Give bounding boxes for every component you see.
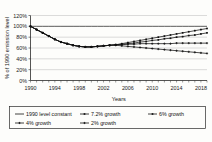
- data-point: [188, 42, 190, 44]
- data-point: [182, 42, 184, 44]
- data-point: [145, 38, 147, 40]
- data-point: [151, 40, 153, 42]
- chart-figure: 0%20%40%60%80%100%120% 19901994199820022…: [0, 0, 212, 142]
- data-point: [157, 36, 159, 38]
- data-point: [163, 43, 165, 45]
- data-point: [175, 42, 177, 44]
- y-tick-label: 0%: [19, 78, 27, 84]
- x-axis-ticks: 19901994199820022006201020142018: [25, 81, 208, 92]
- data-point: [182, 36, 184, 38]
- data-point: [175, 50, 177, 52]
- y-axis-title: % of 1990 emission level: [4, 17, 10, 79]
- data-point: [194, 42, 196, 44]
- series-lines: [29, 25, 208, 54]
- data-point: [176, 33, 178, 35]
- x-tick-label: 1994: [49, 85, 61, 91]
- x-tick-label: 2018: [195, 85, 207, 91]
- legend-label: 1990 level constant: [26, 111, 72, 117]
- x-tick-label: 2006: [122, 85, 134, 91]
- legend-label: 2% growth: [91, 120, 116, 126]
- data-point: [169, 43, 171, 45]
- data-point: [194, 34, 196, 36]
- x-tick-label: 1990: [25, 85, 37, 91]
- data-point: [164, 38, 166, 40]
- data-point: [139, 43, 141, 45]
- data-point: [139, 40, 141, 42]
- data-point: [188, 35, 190, 37]
- data-point: [133, 41, 135, 43]
- data-point: [157, 48, 159, 50]
- x-tick-label: 2010: [146, 85, 158, 91]
- data-point: [170, 37, 172, 39]
- data-point: [151, 37, 153, 39]
- data-point: [84, 113, 86, 115]
- data-point: [200, 29, 202, 31]
- data-point: [194, 30, 196, 32]
- legend-label: 4% growth: [26, 120, 51, 126]
- data-point: [200, 52, 202, 54]
- data-point: [188, 51, 190, 53]
- x-tick-label: 2002: [98, 85, 110, 91]
- x-tick-label: 1998: [73, 85, 85, 91]
- y-tick-label: 20%: [16, 67, 27, 73]
- series-path: [31, 26, 208, 53]
- data-point: [206, 42, 208, 44]
- data-point: [145, 43, 147, 45]
- data-point: [151, 43, 153, 45]
- data-point: [182, 50, 184, 52]
- x-tick-label: 2014: [171, 85, 183, 91]
- x-axis-title: Years: [112, 96, 126, 102]
- legend-label: 7.2% growth: [91, 111, 120, 117]
- y-tick-label: 100%: [13, 23, 27, 29]
- data-point: [145, 41, 147, 43]
- data-point: [200, 33, 202, 35]
- data-point: [127, 45, 129, 47]
- data-point: [157, 43, 159, 45]
- data-point: [169, 49, 171, 51]
- y-axis-ticks: 0%20%40%60%80%100%120%: [13, 13, 30, 84]
- series-2-growth: [29, 25, 208, 54]
- data-point: [200, 42, 202, 44]
- emissions-line-chart: 0%20%40%60%80%100%120% 19901994199820022…: [0, 0, 212, 142]
- data-point: [152, 113, 154, 115]
- data-point: [182, 32, 184, 34]
- y-tick-label: 80%: [16, 34, 27, 40]
- data-point: [170, 34, 172, 36]
- data-point: [206, 32, 208, 34]
- gridlines: [31, 16, 208, 70]
- y-tick-label: 60%: [16, 45, 27, 51]
- data-point: [206, 52, 208, 54]
- data-point: [163, 49, 165, 51]
- data-point: [194, 51, 196, 53]
- data-point: [188, 31, 190, 33]
- legend-label: 6% growth: [159, 111, 184, 117]
- y-tick-label: 120%: [13, 13, 27, 19]
- y-tick-label: 40%: [16, 56, 27, 62]
- data-point: [206, 28, 208, 30]
- data-point: [164, 35, 166, 37]
- data-point: [133, 46, 135, 48]
- data-point: [176, 36, 178, 38]
- data-point: [145, 47, 147, 49]
- data-point: [157, 39, 159, 41]
